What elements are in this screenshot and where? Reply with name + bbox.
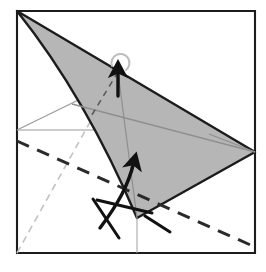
origami-canvas xyxy=(0,0,266,272)
origami-diagram xyxy=(0,0,266,272)
